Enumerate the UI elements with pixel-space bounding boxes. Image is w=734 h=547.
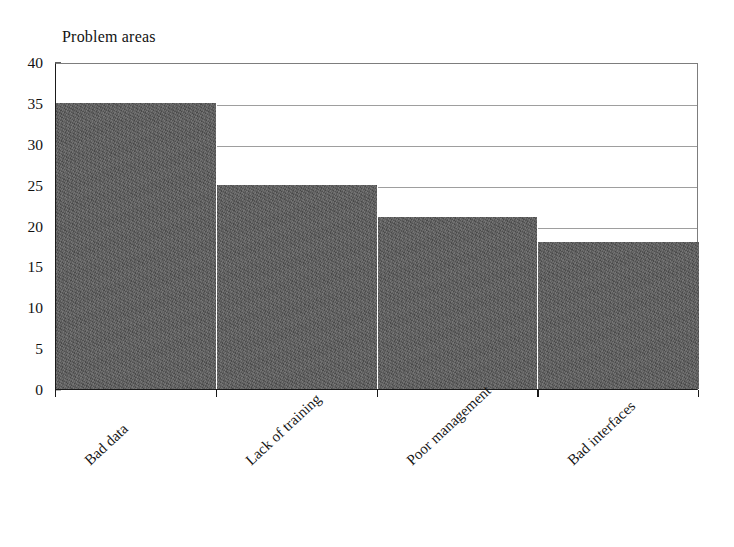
x-tick-mark bbox=[216, 390, 217, 397]
x-tick-mark bbox=[377, 390, 378, 397]
x-tick-mark bbox=[55, 390, 56, 397]
x-tick-mark bbox=[698, 390, 699, 397]
x-tick-label: Poor management bbox=[403, 382, 494, 469]
bar-chart-figure: Problem areas 0510152025303540 Bad dataL… bbox=[0, 0, 734, 547]
x-tick-label: Bad interfaces bbox=[564, 398, 639, 469]
x-tick-mark bbox=[537, 390, 538, 397]
x-axis: Bad dataLack of trainingPoor managementB… bbox=[0, 0, 734, 547]
x-tick-label: Bad data bbox=[82, 420, 132, 469]
x-tick-label: Lack of training bbox=[243, 391, 325, 469]
